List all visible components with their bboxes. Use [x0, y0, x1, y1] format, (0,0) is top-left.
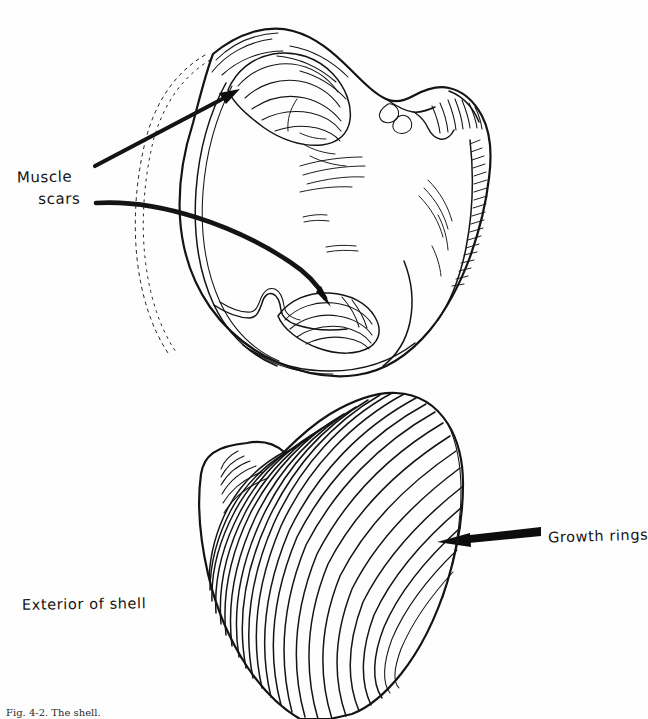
hinge-teeth — [379, 91, 482, 139]
exterior-shell-outline — [199, 393, 463, 719]
pallial-line-outer — [195, 83, 277, 366]
label-muscle-scars: Muscle scars — [17, 167, 81, 208]
interior-shell-view — [135, 29, 490, 377]
figure-caption: Fig. 4-2. The shell. — [6, 707, 101, 718]
arrow-to-anterior-muscle-scar — [95, 89, 240, 166]
arrow-to-growth-rings — [437, 527, 541, 547]
exterior-shell-view — [199, 393, 463, 719]
annotation-arrows — [95, 89, 541, 547]
anterior-muscle-scar — [228, 53, 350, 145]
label-muscle-scars-line2: scars — [38, 190, 80, 208]
label-exterior-of-shell: Exterior of shell — [22, 595, 146, 613]
label-muscle-scars-line1: Muscle — [17, 168, 73, 187]
interior-surface-lines — [288, 99, 452, 366]
label-growth-rings: Growth rings — [548, 527, 648, 546]
arrow-to-posterior-muscle-scar — [96, 203, 331, 307]
umbonal-sculpture-lines — [212, 33, 348, 99]
